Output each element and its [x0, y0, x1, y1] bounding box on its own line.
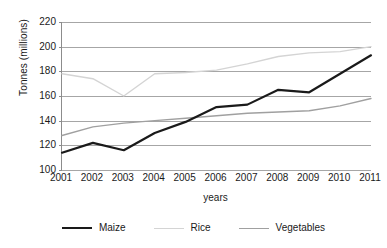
legend-line-swatch-icon	[62, 227, 92, 229]
legend-item-maize[interactable]: Maize	[62, 222, 126, 234]
legend-item-label: Rice	[191, 222, 211, 234]
line-chart-figure: Tonnes (millions) 100120140160180200220 …	[0, 0, 387, 248]
y-axis-tick-mark	[59, 170, 62, 171]
legend-item-label: Vegetables	[276, 222, 326, 234]
y-axis-tick-label: 180	[24, 66, 56, 76]
legend-line-swatch-icon	[154, 228, 184, 229]
y-axis-tick-label: 220	[24, 17, 56, 27]
series-line-vegetables	[62, 98, 371, 135]
legend-line-swatch-icon	[239, 228, 269, 229]
plot-area	[61, 22, 371, 170]
chart-legend: MaizeRiceVegetables	[0, 218, 387, 238]
x-axis-title: years	[61, 192, 370, 203]
series-line-rice	[62, 47, 371, 96]
y-axis-tick-labels: 100120140160180200220	[24, 22, 56, 170]
x-axis-tick-labels: 2001200220032004200520062007200820092010…	[61, 172, 370, 188]
legend-item-rice[interactable]: Rice	[154, 222, 211, 234]
legend-item-vegetables[interactable]: Vegetables	[239, 222, 326, 234]
gridline	[62, 170, 371, 171]
y-axis-tick-label: 200	[24, 42, 56, 52]
legend-item-label: Maize	[99, 222, 126, 234]
y-axis-tick-label: 140	[24, 116, 56, 126]
series-lines	[62, 22, 371, 170]
y-axis-tick-label: 160	[24, 91, 56, 101]
y-axis-tick-label: 120	[24, 140, 56, 150]
x-axis-tick-label: 2011	[350, 172, 387, 184]
